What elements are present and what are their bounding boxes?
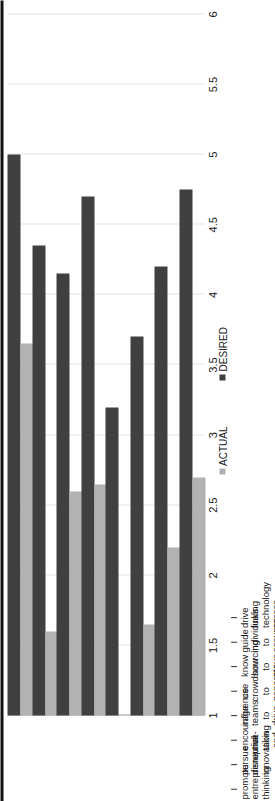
bar-desired	[130, 336, 143, 715]
tick-label-5-5: 5.5	[206, 76, 218, 91]
bar-group	[106, 0, 131, 801]
tick-label-4: 4	[206, 291, 218, 297]
bar-group	[8, 0, 33, 801]
category-label: I promote entrepreneurial thinking	[228, 779, 270, 800]
category-label: I know how to move quickly and bring ind…	[228, 656, 275, 677]
bar-desired	[154, 266, 167, 715]
tick-label-3: 3	[206, 432, 218, 438]
category-label: I influence teams to drive innovation	[228, 705, 275, 726]
tick-label-3-5: 3.5	[206, 357, 218, 372]
tick-label-2-5: 2.5	[206, 497, 218, 512]
tick-label-1: 1	[206, 712, 218, 718]
tick-label-4-5: 4.5	[206, 217, 218, 232]
tick-label-5: 5	[206, 151, 218, 157]
bar-actual	[192, 477, 205, 715]
bar-desired	[81, 196, 94, 715]
bar-desired	[179, 189, 192, 715]
bar-desired	[32, 245, 45, 715]
bar-group	[180, 0, 205, 801]
category-label: I use crowdsourcing to generate ideas fo…	[228, 681, 275, 702]
bar-desired	[105, 407, 118, 715]
plot-area	[8, 0, 204, 801]
page-edge-rule	[0, 0, 3, 801]
bar-group	[82, 0, 107, 801]
bar-group	[155, 0, 180, 801]
bar-group	[33, 0, 58, 801]
tick-label-2: 2	[206, 572, 218, 578]
chart-rotation-container: 11.522.533.544.555.56 I promote entrepre…	[0, 0, 275, 801]
bar-desired	[7, 154, 20, 715]
bar-chart-figure: 11.522.533.544.555.56 I promote entrepre…	[0, 0, 275, 801]
category-label: I pursue disruptive innovation	[228, 754, 270, 775]
category-label: I drive linking technology across the va…	[228, 607, 275, 628]
bar-desired	[56, 273, 69, 715]
bar-group	[131, 0, 156, 801]
value-axis-tick-labels: 11.522.533.544.555.56	[206, 0, 226, 801]
category-label: I guide individuals to assume innovation…	[228, 632, 275, 653]
bar-series-area	[8, 0, 204, 801]
category-label: I encourage risk-taking and experimentat…	[228, 730, 275, 751]
tick-label-6: 6	[206, 11, 218, 17]
tick-label-1-5: 1.5	[206, 637, 218, 652]
category-axis-labels: I promote entrepreneurial thinkingI purs…	[228, 0, 272, 801]
bar-group	[57, 0, 82, 801]
